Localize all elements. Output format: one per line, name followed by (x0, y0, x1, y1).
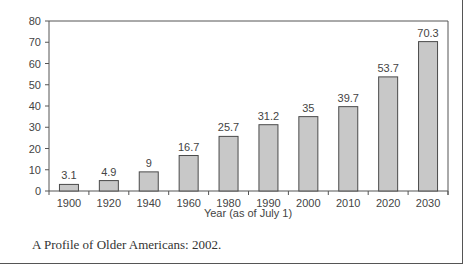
x-axis-title: Year (as of July 1) (204, 207, 292, 219)
bar-value-label: 4.9 (101, 166, 116, 178)
y-tick-label: 50 (29, 79, 41, 91)
bar-1900 (59, 184, 78, 191)
y-tick-label: 60 (29, 58, 41, 70)
y-tick-label: 0 (35, 185, 41, 197)
bar-value-label: 39.7 (338, 92, 359, 104)
bar-value-label: 9 (146, 157, 152, 169)
x-tick-label: 1960 (176, 197, 200, 209)
x-tick-label: 2000 (296, 197, 320, 209)
bar-value-label: 70.3 (417, 27, 438, 39)
x-tick-label: 1900 (57, 197, 81, 209)
bar-value-label: 35 (302, 102, 314, 114)
x-tick-label: 2020 (376, 197, 400, 209)
x-tick-label: 2030 (416, 197, 440, 209)
bar-1990 (259, 125, 278, 191)
bar-value-label: 31.2 (258, 110, 279, 122)
bars: 3.14.9916.725.731.23539.753.770.3 (59, 27, 438, 191)
y-tick-label: 70 (29, 36, 41, 48)
x-tick-label: 2010 (336, 197, 360, 209)
bar-chart: 01020304050607080 1900192019401960198019… (0, 0, 476, 266)
bar-1920 (99, 181, 118, 191)
y-tick-label: 40 (29, 100, 41, 112)
bar-value-label: 3.1 (61, 169, 76, 181)
bar-1960 (179, 156, 198, 191)
y-tick-label: 10 (29, 164, 41, 176)
y-tick-label: 30 (29, 121, 41, 133)
x-tick-label: 1920 (97, 197, 121, 209)
bar-value-label: 53.7 (377, 62, 398, 74)
bar-2010 (339, 107, 358, 191)
bar-2020 (379, 77, 398, 191)
bar-2030 (419, 42, 438, 191)
x-tick-label: 1940 (137, 197, 161, 209)
y-tick-label: 20 (29, 143, 41, 155)
bar-1980 (219, 136, 238, 191)
bar-1940 (139, 172, 158, 191)
bar-value-label: 16.7 (178, 141, 199, 153)
bar-2000 (299, 117, 318, 191)
bar-value-label: 25.7 (218, 121, 239, 133)
y-tick-label: 80 (29, 15, 41, 27)
figure-caption: A Profile of Older Americans: 2002. (32, 237, 221, 253)
